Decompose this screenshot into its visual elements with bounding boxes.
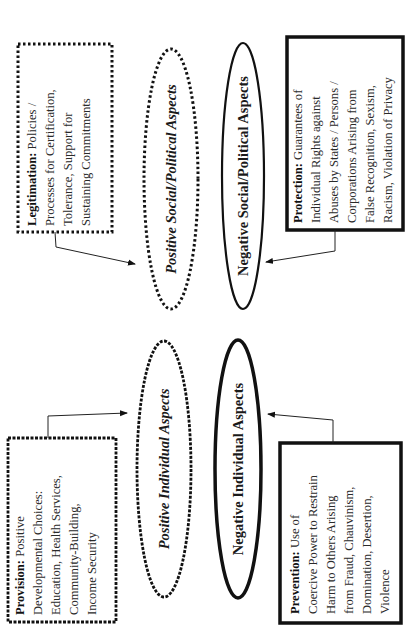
positive-individual-label: Positive Individual Aspects: [156, 388, 172, 549]
prevention-arrow: [268, 414, 333, 443]
positive-social-political-label: Positive Social/Political Aspects: [163, 84, 179, 274]
negative-social-political-ellipse: Negative Social/Political Aspects: [222, 43, 264, 309]
legitimation-arrow: [55, 232, 135, 264]
prevention-box: Prevention: Use of Coercive Power to Res…: [280, 443, 401, 623]
protection-box: Protection: Guarantees of Individual Rig…: [287, 37, 403, 230]
provision-box: Provision: Positive Developmental Choice…: [8, 438, 116, 622]
legitimation-box: Legitimation: Policies / Processes for C…: [18, 44, 112, 232]
aspects-diagram: Legitimation: Policies / Processes for C…: [0, 0, 414, 635]
protection-arrow: [266, 230, 335, 262]
negative-social-political-label: Negative Social/Political Aspects: [235, 76, 251, 276]
provision-arrow: [48, 413, 127, 438]
positive-individual-ellipse: Positive Individual Aspects: [137, 341, 191, 597]
positive-social-political-ellipse: Positive Social/Political Aspects: [144, 49, 198, 309]
negative-individual-ellipse: Negative Individual Aspects: [215, 340, 261, 598]
negative-individual-label: Negative Individual Aspects: [230, 382, 246, 555]
